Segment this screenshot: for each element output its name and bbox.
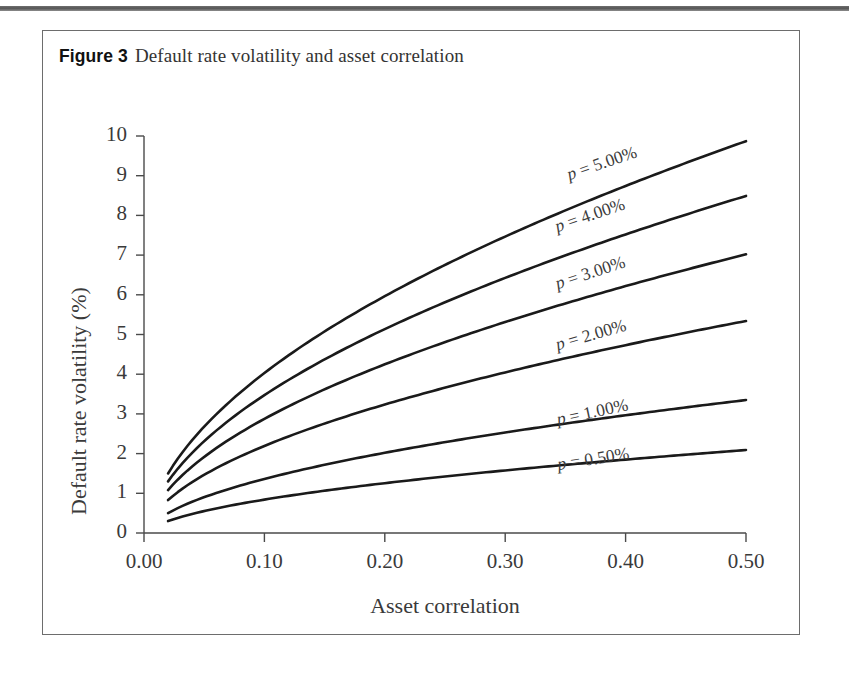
y-axis-title: Default rate volatility (%) bbox=[66, 287, 92, 515]
curve-0.5 bbox=[168, 450, 746, 521]
y-tick-label: 3 bbox=[87, 400, 127, 425]
x-tick-label: 0.10 bbox=[224, 549, 304, 574]
y-tick-label: 2 bbox=[87, 440, 127, 465]
chart-svg bbox=[43, 31, 801, 636]
x-tick-label: 0.20 bbox=[345, 549, 425, 574]
x-axis-title: Asset correlation bbox=[144, 593, 746, 619]
y-tick-label: 9 bbox=[87, 162, 127, 187]
chart-curves bbox=[168, 141, 746, 521]
x-tick-label: 0.50 bbox=[706, 549, 786, 574]
y-tick-label: 10 bbox=[87, 122, 127, 147]
y-tick-label: 6 bbox=[87, 281, 127, 306]
y-tick-label: 8 bbox=[87, 201, 127, 226]
y-tick-label: 0 bbox=[87, 519, 127, 544]
curve-3 bbox=[168, 254, 746, 490]
x-tick-label: 0.00 bbox=[104, 549, 184, 574]
y-tick-label: 5 bbox=[87, 321, 127, 346]
page-header-rule bbox=[0, 6, 849, 11]
p-symbol: p bbox=[556, 453, 568, 474]
figure-container: Figure 3Default rate volatility and asse… bbox=[42, 30, 800, 635]
y-tick-label: 1 bbox=[87, 479, 127, 504]
y-tick-label: 4 bbox=[87, 360, 127, 385]
x-tick-label: 0.30 bbox=[465, 549, 545, 574]
chart-plot-area: 012345678910 0.000.100.200.300.400.50 p … bbox=[43, 31, 801, 636]
x-tick-label: 0.40 bbox=[586, 549, 666, 574]
y-tick-label: 7 bbox=[87, 241, 127, 266]
